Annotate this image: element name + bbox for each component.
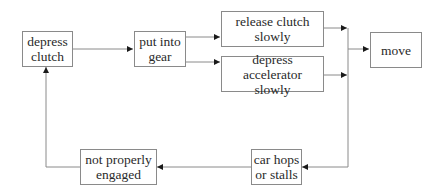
node-car-hops-or-stalls: car hops or stalls	[251, 149, 302, 185]
node-label: depress clutch	[27, 34, 68, 64]
node-move: move	[370, 32, 422, 68]
node-label: release clutch slowly	[236, 14, 310, 44]
node-label: put into gear	[139, 34, 181, 64]
node-label: not properly engaged	[85, 152, 151, 182]
edge-notengaged-to-clutch	[46, 67, 80, 167]
node-label: move	[381, 43, 411, 58]
node-depress-accelerator: depress accelerator slowly	[221, 56, 324, 92]
node-label: car hops or stalls	[254, 152, 299, 182]
node-put-into-gear: put into gear	[134, 31, 186, 67]
node-not-properly-engaged: not properly engaged	[80, 149, 157, 185]
flowchart-canvas: depress clutch put into gear release clu…	[0, 0, 442, 195]
node-label: depress accelerator slowly	[222, 52, 323, 97]
node-depress-clutch: depress clutch	[22, 31, 73, 67]
node-release-clutch: release clutch slowly	[221, 11, 324, 47]
